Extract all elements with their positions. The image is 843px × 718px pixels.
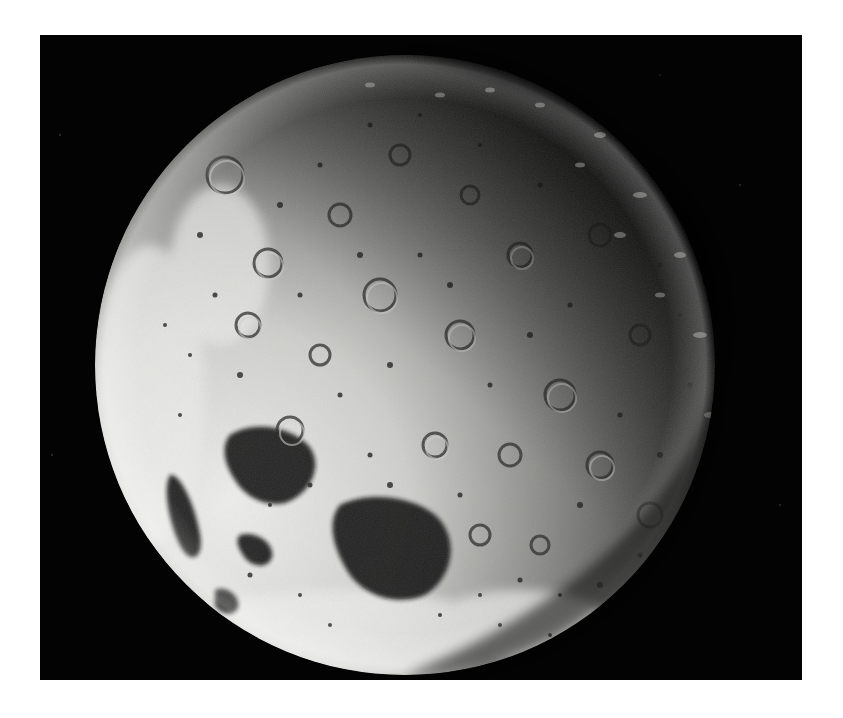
photo-frame: Moon [40, 35, 802, 680]
moon-photograph [40, 35, 802, 680]
